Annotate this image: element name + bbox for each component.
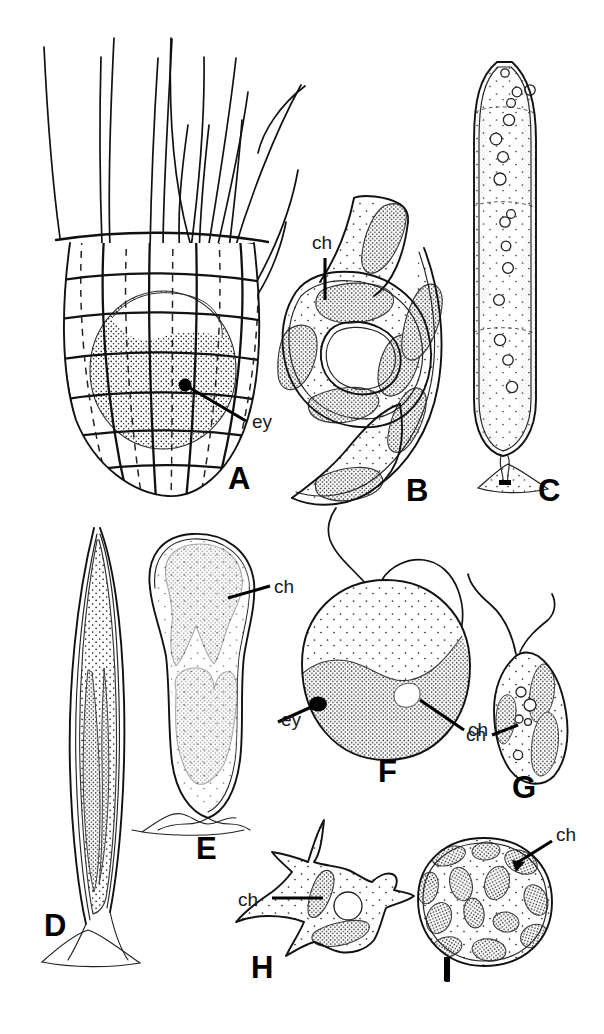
panel-H-letter: H <box>251 950 273 985</box>
figure-canvas: ey A <box>0 0 604 1034</box>
figure-plate: ey A <box>0 0 604 1034</box>
panel-H-vacuole <box>334 892 362 920</box>
panel-G-flagellum-left <box>468 574 516 654</box>
panel-E: ch E <box>132 534 294 866</box>
panel-A-letter: A <box>228 461 250 496</box>
panel-F-label-ey: ey <box>281 709 302 730</box>
panel-A: ey A <box>44 38 305 500</box>
panel-C-letter: C <box>538 473 560 508</box>
panel-A-label-ey: ey <box>252 411 273 432</box>
panel-D-letter: D <box>44 908 66 943</box>
panel-B: ch B <box>278 196 442 508</box>
panel-F-letter: F <box>378 754 397 789</box>
panel-B-letter: B <box>406 473 428 508</box>
panel-E-letter: E <box>196 831 217 866</box>
panel-D: D <box>42 528 140 967</box>
panel-F: ey ch F <box>278 508 488 789</box>
panel-I-label-ch: ch <box>556 824 576 845</box>
panel-H-label-ch: ch <box>238 889 258 910</box>
panel-G-flagellum-right <box>520 594 555 652</box>
panel-G: ch G <box>466 574 568 805</box>
panel-G-label-ch: ch <box>466 724 486 745</box>
panel-C: C <box>470 58 560 508</box>
panel-F-flagellum-left <box>328 508 366 584</box>
panel-H: ch H <box>236 820 414 985</box>
panel-I: ch I <box>412 824 576 989</box>
panel-I-letter: I <box>443 954 452 989</box>
panel-G-letter: G <box>512 770 536 805</box>
panel-F-contents <box>296 574 480 766</box>
panel-E-label-ch: ch <box>274 576 294 597</box>
panel-B-label-ch: ch <box>312 232 332 253</box>
